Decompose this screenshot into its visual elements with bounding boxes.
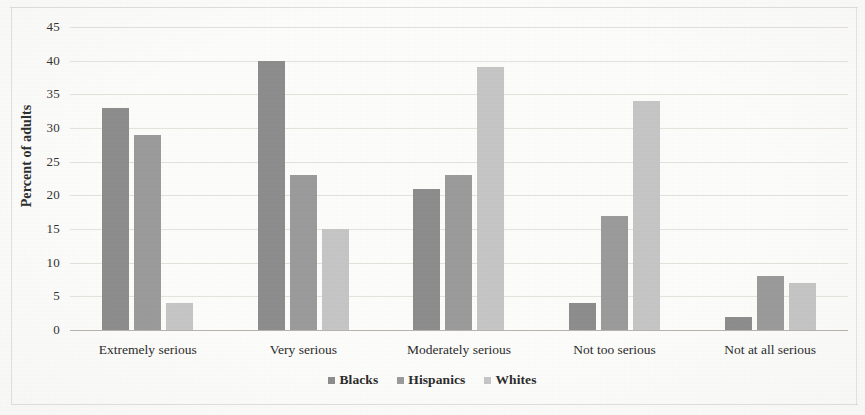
x-axis-category-label: Not at all serious [692,342,848,358]
x-axis-baseline [70,330,848,331]
y-axis-tick-label: 35 [26,87,60,100]
x-axis-category-label: Extremely serious [70,342,226,358]
bar [569,303,596,330]
bar [633,101,660,330]
x-axis-category-label: Moderately serious [381,342,537,358]
bar [102,108,129,330]
bar [789,283,816,330]
legend-swatch-icon [397,377,404,384]
bar [258,61,285,330]
bar [477,67,504,330]
y-axis-tick-label: 45 [26,20,60,33]
bar [725,317,752,330]
bar [322,229,349,330]
legend-label: Whites [495,372,536,388]
y-axis-tick-label: 20 [26,188,60,201]
bar-group [692,27,848,330]
chart-legend: BlacksHispanicsWhites [0,372,865,388]
x-axis-category-label: Very serious [226,342,382,358]
y-axis-tick-label: 15 [26,222,60,235]
legend-label: Hispanics [408,372,465,388]
plot-area [70,27,848,330]
y-axis-tick-label: 40 [26,54,60,67]
legend-swatch-icon [328,377,335,384]
legend-label: Blacks [339,372,378,388]
scanned-page-frame: Percent of adults 051015202530354045 Ext… [0,0,865,415]
x-axis-category-label: Not too serious [537,342,693,358]
bar [757,276,784,330]
bar-chart: Percent of adults 051015202530354045 Ext… [0,0,865,415]
legend-item: Whites [484,372,536,388]
bar [134,135,161,330]
y-axis-tick-label: 10 [26,256,60,269]
y-axis-tick-label: 25 [26,155,60,168]
bar-group [381,27,537,330]
bar-group [70,27,226,330]
bar-group [537,27,693,330]
bar [166,303,193,330]
bar [601,216,628,330]
bar [290,175,317,330]
y-axis-tick-label: 0 [26,323,60,336]
y-axis-tick-label: 5 [26,289,60,302]
legend-item: Hispanics [397,372,465,388]
y-axis-tick-label: 30 [26,121,60,134]
bar-group [226,27,382,330]
legend-item: Blacks [328,372,378,388]
legend-swatch-icon [484,377,491,384]
bar [445,175,472,330]
bar [413,189,440,330]
